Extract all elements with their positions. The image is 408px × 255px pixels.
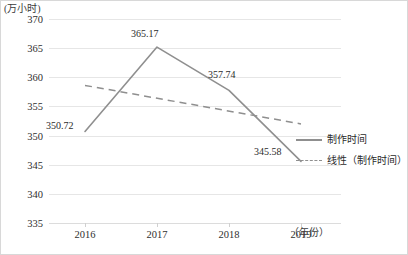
- x-axis-unit-label: （年份）: [289, 227, 329, 239]
- legend-solid-line-icon: [296, 135, 322, 145]
- x-tick-2018: [229, 223, 230, 227]
- series-line-linear-trend: [85, 85, 301, 124]
- x-tick-2017: [157, 223, 158, 227]
- data-label-2019: 345.58: [254, 146, 282, 157]
- data-label-2016: 350.72: [46, 120, 74, 131]
- y-tick-label-370: 370: [27, 14, 43, 25]
- legend-label-production-time: 制作时间: [327, 134, 367, 146]
- y-tick-label-355: 355: [27, 101, 43, 112]
- y-tick-label-350: 350: [27, 131, 43, 142]
- y-tick-label-360: 360: [27, 72, 43, 83]
- legend-dashed-line-icon: [296, 156, 322, 166]
- x-tick-2016: [85, 223, 86, 227]
- y-tick-label-345: 345: [27, 160, 43, 171]
- data-label-2017: 365.17: [131, 28, 159, 39]
- chart-legend: 制作时间 线性（制作时间）: [296, 134, 407, 176]
- y-tick-label-335: 335: [27, 218, 43, 229]
- series-lines: [49, 19, 341, 223]
- legend-item-production-time[interactable]: 制作时间: [296, 134, 407, 146]
- y-tick-label-340: 340: [27, 189, 43, 200]
- x-tick-label-2017: 2017: [147, 229, 168, 241]
- legend-item-linear-trend[interactable]: 线性（制作时间）: [296, 155, 407, 167]
- x-tick-label-2018: 2018: [219, 229, 240, 241]
- y-tick-label-365: 365: [27, 43, 43, 54]
- legend-label-linear-trend: 线性（制作时间）: [327, 155, 407, 167]
- data-label-2018: 357.74: [208, 69, 236, 80]
- x-tick-label-2016: 2016: [75, 229, 96, 241]
- chart-figure: (万小时) 370 365 360 355 350 345 340 335 35…: [0, 0, 408, 255]
- x-axis-line: [49, 223, 341, 224]
- plot-area: 370 365 360 355 350 345 340 335 350.72 3…: [49, 19, 341, 223]
